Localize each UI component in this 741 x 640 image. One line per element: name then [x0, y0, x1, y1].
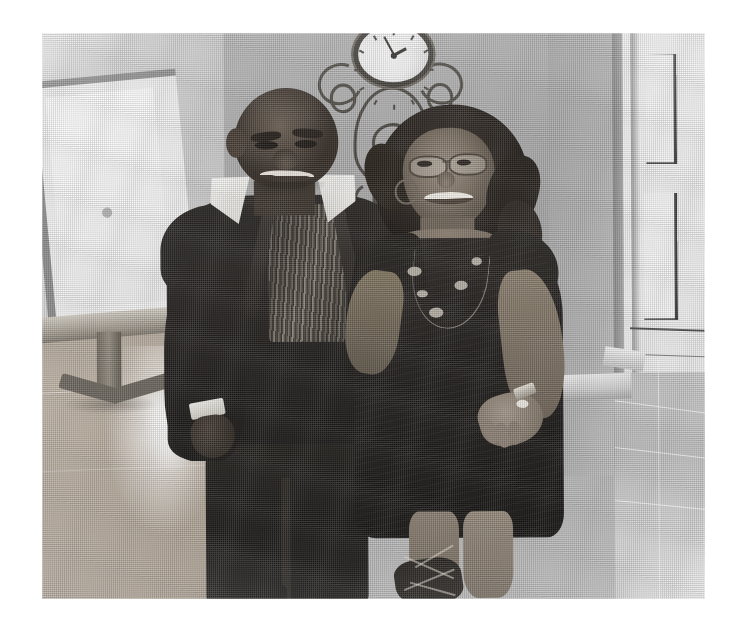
clock-tick-icon	[393, 33, 395, 35]
photograph-content	[42, 33, 705, 599]
clock-tick-icon	[354, 69, 359, 71]
man-shoe	[213, 582, 288, 599]
door-panel-upper	[646, 54, 679, 164]
photo-caption: Scanned black-and-white photograph of a …	[0, 0, 1, 1]
clock-tick-icon	[424, 49, 429, 53]
scan-light-leak	[605, 533, 705, 599]
clock-scroll-curl-left	[329, 84, 356, 113]
photo-alt-text: A man in a dark suit jacket with a white…	[0, 0, 1, 1]
scanned-photograph	[42, 33, 705, 599]
woman-hoop-earring	[395, 179, 418, 204]
woman-leg	[463, 511, 514, 598]
woman-eyeglasses-bridge	[442, 161, 450, 163]
necklace-bead	[429, 307, 444, 317]
woman-eye	[456, 159, 471, 165]
clock-tick-icon	[359, 49, 364, 53]
woman-ring	[516, 399, 528, 407]
clock-tick-icon	[429, 68, 434, 70]
table-pedestal	[96, 332, 121, 390]
man-ear	[226, 128, 246, 158]
mirror-glass	[45, 88, 173, 311]
page-root: A man in a dark suit jacket with a white…	[0, 0, 741, 640]
necklace-bead	[408, 267, 422, 276]
woman-eye	[417, 160, 432, 166]
clock-tick-icon	[373, 35, 377, 40]
necklace-bead	[417, 290, 428, 298]
man-chin-shadow	[251, 181, 325, 195]
man-nose	[273, 149, 297, 170]
man-trouser-crease	[281, 478, 291, 599]
clock-tick-icon	[411, 35, 415, 40]
clock-center-pin	[391, 53, 397, 59]
door-panel-lower	[643, 193, 679, 320]
scan-light-leak	[42, 33, 129, 87]
necklace-bead	[471, 258, 482, 266]
